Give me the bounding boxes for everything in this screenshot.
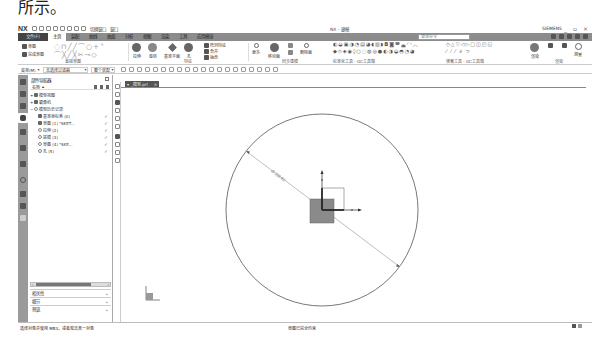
snap-icon[interactable] [225, 67, 230, 72]
column-icon[interactable] [94, 85, 97, 89]
system-materials-icon[interactable] [20, 191, 26, 197]
snap-icon[interactable] [241, 67, 246, 72]
fullscreen-icon[interactable] [559, 34, 564, 39]
visibility-check[interactable]: ✓ [104, 149, 108, 154]
snap-icon[interactable] [169, 67, 174, 72]
snap-icon[interactable] [201, 67, 206, 72]
finish-sketch-button[interactable]: 完成草图 [22, 51, 44, 57]
shaded-icon[interactable] [115, 100, 120, 105]
maximize-icon[interactable] [105, 77, 109, 81]
preview-section[interactable]: 预览⌄ [30, 305, 111, 312]
sort-icon[interactable]: ▴ [42, 84, 44, 89]
offset-region-button[interactable] [288, 43, 293, 48]
delete-face-button[interactable]: 删除面 [300, 43, 312, 55]
snap-icon[interactable] [137, 67, 142, 72]
details-section[interactable]: 细节⌄ [30, 297, 111, 304]
status-icon[interactable] [572, 324, 576, 328]
search-icon[interactable] [551, 34, 556, 39]
analysis-tools-button[interactable] [562, 43, 567, 48]
tree-row-model-history[interactable]: −模型历史记录 [30, 106, 110, 112]
replace-face-button[interactable] [288, 50, 293, 55]
column-icon[interactable] [106, 85, 109, 89]
gear-tools-row[interactable]: ◇△▽◁▷□◫◰◱ [446, 41, 493, 47]
close-icon[interactable]: × [154, 82, 157, 87]
gc-toolbox-row-1[interactable]: ◐◒▣◑◔▤◕◖▥◗◘◙◚◛◜◝◞◟ [333, 41, 419, 47]
tab-analysis[interactable]: 分析 [120, 33, 138, 41]
tree-row-datum-csys[interactable]: 基准坐标系 (0)✓ [30, 113, 110, 119]
tree-row-cameras[interactable]: +摄像机 [30, 99, 110, 105]
settings-icon[interactable] [583, 34, 588, 39]
tab-assembly[interactable]: 装配 [66, 33, 84, 41]
orient-view-icon[interactable] [115, 108, 120, 113]
tree-row-sketch-1[interactable]: 草图 (1) "SKET...✓ [30, 120, 110, 126]
settings-icon[interactable] [20, 79, 26, 85]
more-button[interactable]: 更多 [252, 43, 260, 55]
edit-section-icon[interactable] [115, 142, 120, 147]
fit-icon[interactable] [115, 84, 120, 89]
collapse-ribbon-icon[interactable] [567, 34, 572, 39]
help-icon[interactable] [575, 34, 580, 39]
hole-button[interactable]: 孔 [184, 43, 193, 59]
wireframe-icon[interactable] [115, 124, 120, 129]
redo-icon[interactable] [46, 26, 51, 31]
render-tools-button[interactable] [548, 43, 553, 48]
dependencies-section[interactable]: 相关性⌄ [30, 289, 111, 296]
tree-row-extrude-2[interactable]: 拉伸 (2)✓ [30, 127, 110, 133]
tree-row-draft-3[interactable]: 拔模 (3)✓ [30, 134, 110, 140]
minimize-icon[interactable]: _ [564, 25, 567, 32]
paste-icon[interactable] [67, 26, 72, 31]
spring-tools-row[interactable]: ⁄ ⁄ ⁄ ∂ ⊃ [446, 48, 471, 54]
repeat-icon[interactable] [74, 26, 79, 31]
undo-icon[interactable] [39, 26, 44, 31]
save-icon[interactable] [32, 26, 37, 31]
name-column-header[interactable]: 名称 [32, 84, 40, 90]
scroll-right-icon[interactable]: › [107, 282, 109, 287]
snap-icon[interactable] [209, 67, 214, 72]
gc-toolbox-row-2[interactable]: ◆◇◈◉◊○◌◍◎●◐◑◒◓◔◕ [333, 48, 415, 54]
snap-icon[interactable] [265, 67, 270, 72]
status-icon[interactable] [578, 324, 582, 328]
graphics-canvas[interactable]: Ø 258.62 [122, 88, 586, 320]
snap-icon[interactable] [273, 67, 278, 72]
revolve-button[interactable]: 旋转 [148, 43, 157, 59]
render-style-icon[interactable] [115, 134, 120, 139]
snap-icon[interactable] [153, 67, 158, 72]
move-face-button[interactable]: 移动面 [268, 43, 280, 59]
tab-view[interactable]: 视图 [138, 33, 156, 41]
assembly-navigator-icon[interactable] [20, 91, 26, 97]
tab-curve[interactable]: 曲线 [84, 33, 102, 41]
copy-icon[interactable] [60, 26, 65, 31]
measure-button[interactable]: 测量 [574, 43, 582, 57]
hd3d-tools-icon[interactable] [20, 145, 26, 151]
switch-window-button[interactable]: 切换窗口 [90, 26, 106, 32]
tab-home[interactable]: 主页 [48, 33, 66, 41]
window-button[interactable]: 窗口 [110, 26, 118, 32]
visibility-check[interactable]: ✓ [104, 128, 108, 133]
close-icon[interactable]: × [583, 25, 588, 32]
sketch-button[interactable]: 草图 [22, 43, 36, 49]
graphics-window[interactable]: Ø 258.62 [122, 88, 586, 320]
tree-row-model-views[interactable]: +模型视图 [30, 92, 110, 98]
constraint-navigator-icon[interactable] [20, 103, 26, 109]
snap-icon[interactable] [249, 67, 254, 72]
visibility-check[interactable]: ✓ [104, 135, 108, 140]
column-icon[interactable] [100, 85, 103, 89]
diameter-dimension-text[interactable]: Ø 258.62 [270, 168, 287, 182]
reuse-library-icon[interactable] [20, 129, 26, 135]
cross-section-icon[interactable] [115, 116, 120, 121]
scrollbar-thumb[interactable] [36, 283, 91, 286]
scroll-left-icon[interactable]: ‹ [32, 282, 34, 287]
snap-icon[interactable] [177, 67, 182, 72]
visibility-check[interactable]: ✓ [104, 142, 108, 147]
snap-icon[interactable] [217, 67, 222, 72]
tab-file[interactable]: 文件(F) [18, 33, 48, 41]
snap-icon[interactable] [193, 67, 198, 72]
snap-icon[interactable] [129, 67, 134, 72]
tree-row-sketch-4[interactable]: 草图 (4) "SKE...✓ [30, 141, 110, 147]
snap-icon[interactable] [233, 67, 238, 72]
render-button[interactable]: 渲染 [530, 43, 539, 59]
web-browser-icon[interactable] [20, 161, 26, 167]
tab-applications[interactable]: 应用模块 [192, 33, 218, 41]
snap-icon[interactable] [257, 67, 262, 72]
snap-icon[interactable] [185, 67, 190, 72]
